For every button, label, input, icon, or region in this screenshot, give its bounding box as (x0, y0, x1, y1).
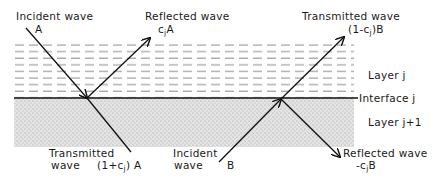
reflected-wave-b-title: Reflected wave (343, 148, 428, 159)
transmitted-wave-a-amplitude: (1+cj) A (97, 160, 141, 174)
transmitted-wave-b-amplitude: (1-cj)B (348, 24, 384, 38)
incident-wave-b-amplitude: B (227, 160, 235, 171)
layer-j1-label: Layer j+1 (368, 117, 422, 128)
layer-j1-region (14, 98, 354, 147)
layer-j-label: Layer j (368, 70, 406, 81)
reflected-wave-a-title: Reflected wave (145, 11, 230, 22)
reflected-wave-a-amplitude: cjA (158, 24, 174, 38)
incident-wave-b-title-2: wave (174, 160, 203, 171)
interface-j-label: Interface j (359, 93, 416, 104)
layer-j-region (14, 42, 354, 98)
incident-wave-a-title: Incident wave (16, 11, 93, 22)
transmitted-wave-a-title-1: Transmitted (49, 148, 115, 159)
incident-wave-a-amplitude: A (35, 24, 42, 35)
transmitted-wave-a-title-2: wave (51, 160, 80, 171)
wave-reflection-diagram: Incident wave A Reflected wave cjA Trans… (0, 0, 438, 182)
incident-wave-b-title-1: Incident (173, 148, 218, 159)
transmitted-wave-b-title: Transmitted wave (302, 11, 400, 22)
reflected-wave-b-amplitude: -cjB (356, 160, 376, 174)
